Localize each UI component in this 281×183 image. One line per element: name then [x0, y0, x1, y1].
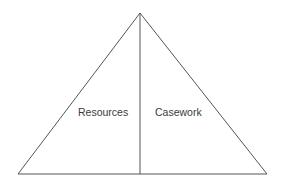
triangle-diagram [0, 0, 281, 183]
triangle-outline [18, 13, 267, 174]
section-label-resources: Resources [78, 107, 128, 118]
section-label-casework: Casework [155, 107, 202, 118]
